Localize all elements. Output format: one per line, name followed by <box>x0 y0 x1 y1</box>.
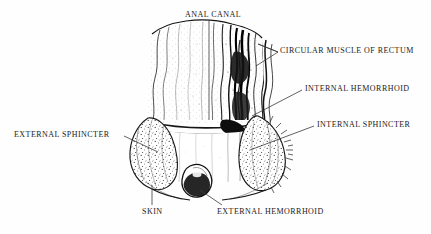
leader-external-hemorrhoid <box>200 190 222 205</box>
label-internal-sphincter: INTERNAL SPHINCTER <box>317 121 410 129</box>
external-sphincter-left <box>130 118 178 190</box>
label-internal-hemorrhoid: INTERNAL HEMORRHOID <box>305 85 409 93</box>
label-circular-muscle-of-rectum: CIRCULAR MUSCLE OF RECTUM <box>280 47 414 55</box>
sphincter-right <box>239 116 293 193</box>
external-hemorrhoid-mass <box>182 164 212 197</box>
label-anal-canal: ANAL CANAL <box>185 11 241 19</box>
label-external-hemorrhoid: EXTERNAL HEMORRHOID <box>217 208 324 216</box>
rectum-upper-mucosa <box>144 20 266 126</box>
label-skin: SKIN <box>142 208 162 216</box>
label-external-sphincter: EXTERNAL SPHINCTER <box>14 131 110 139</box>
circular-muscle-of-rectum <box>263 40 273 128</box>
anatomical-figure: ANAL CANAL CIRCULAR MUSCLE OF RECTUM INT… <box>0 0 431 234</box>
anatomy-illustration <box>0 0 431 234</box>
